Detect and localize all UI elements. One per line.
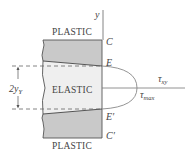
dimension-2yy-sub: Y — [18, 88, 23, 95]
plastic-bottom-label: PLASTIC — [52, 141, 92, 151]
tau-max-label: τmax — [140, 89, 155, 101]
point-e-label: E — [105, 57, 112, 68]
tau-max-sub: max — [144, 94, 155, 101]
arrowhead-up-icon — [17, 67, 20, 71]
dimension-2yy-label: 2yY — [9, 83, 23, 95]
stress-curve — [102, 66, 137, 109]
tau-xy-label: τxy — [158, 73, 167, 85]
stress-diagram: y PLASTIC C E ELASTIC E′ C′ PLASTIC 2yY … — [0, 0, 185, 152]
arrowhead-down-icon — [17, 105, 20, 109]
tau-xy-sub: xy — [161, 78, 168, 85]
point-c-prime-label: C′ — [106, 130, 116, 141]
plastic-top-label: PLASTIC — [52, 27, 92, 37]
elastic-label: ELASTIC — [52, 85, 92, 95]
point-c-label: C — [106, 36, 113, 47]
y-axis-label: y — [94, 9, 100, 20]
point-e-prime-label: E′ — [105, 111, 115, 122]
